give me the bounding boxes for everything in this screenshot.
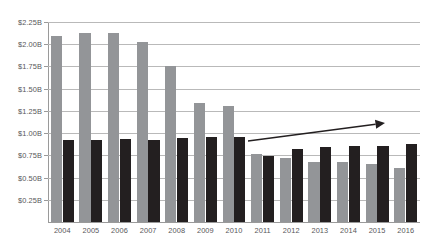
x-axis-tick-label-2008: 2008 [168, 226, 185, 235]
bar-black-series-2011 [263, 156, 274, 222]
y-axis-tick-label: $2.00B [18, 40, 42, 49]
bar-group-2008 [165, 22, 188, 222]
bar-group-2016 [394, 22, 417, 222]
y-axis-tick-label: $0.50B [18, 173, 42, 182]
bar-black-series-2008 [177, 138, 188, 222]
bar-black-series-2016 [406, 144, 417, 222]
x-axis-tick-label-2016: 2016 [397, 226, 414, 235]
bar-group-2013 [308, 22, 331, 222]
y-axis-tick-label: $1.75B [18, 62, 42, 71]
x-axis-tick-label-2007: 2007 [140, 226, 157, 235]
bar-gray-series-2008 [165, 66, 176, 222]
y-axis-tick-label: $1.00B [18, 129, 42, 138]
bar-black-series-2015 [377, 146, 388, 222]
bar-chart: $2.25B$2.00B$1.75B$1.50B$1.25B$1.00B$0.7… [0, 0, 428, 243]
bar-black-series-2009 [206, 137, 217, 222]
y-axis-tick-label: $2.25B [18, 18, 42, 27]
x-axis-tick-label-2004: 2004 [54, 226, 71, 235]
bar-gray-series-2007 [137, 42, 148, 222]
bar-black-series-2007 [148, 140, 159, 222]
x-axis-tick-label-2013: 2013 [311, 226, 328, 235]
y-axis-tick-label: $0.75B [18, 151, 42, 160]
bars-layer [48, 22, 420, 222]
plot-area: $2.25B$2.00B$1.75B$1.50B$1.25B$1.00B$0.7… [48, 22, 420, 222]
bar-group-2011 [251, 22, 274, 222]
x-axis-tick-label-2014: 2014 [340, 226, 357, 235]
bar-group-2010 [223, 22, 246, 222]
bar-group-2009 [194, 22, 217, 222]
bar-black-series-2012 [292, 149, 303, 222]
x-axis-tick-label-2015: 2015 [369, 226, 386, 235]
x-axis-tick-label-2011: 2011 [254, 226, 270, 235]
bar-gray-series-2004 [51, 36, 62, 222]
y-axis-tick-label: $1.25B [18, 106, 42, 115]
bar-black-series-2005 [91, 140, 102, 222]
x-axis-labels: 2004200520062007200820092010201120122013… [48, 226, 420, 242]
bar-gray-series-2016 [394, 168, 405, 222]
bar-gray-series-2012 [280, 158, 291, 222]
bar-group-2015 [366, 22, 389, 222]
bar-group-2006 [108, 22, 131, 222]
bar-black-series-2013 [320, 147, 331, 222]
bar-black-series-2014 [349, 146, 360, 222]
bar-gray-series-2005 [79, 33, 90, 222]
x-axis-tick-label-2006: 2006 [111, 226, 128, 235]
bar-group-2012 [280, 22, 303, 222]
bar-black-series-2004 [63, 140, 74, 222]
bar-group-2004 [51, 22, 74, 222]
bar-gray-series-2006 [108, 33, 119, 222]
x-axis-tick-label-2005: 2005 [82, 226, 99, 235]
x-axis-tick-label-2012: 2012 [283, 226, 300, 235]
bar-group-2005 [79, 22, 102, 222]
y-axis-tick-label: $1.50B [18, 84, 42, 93]
x-axis-tick-label-2009: 2009 [197, 226, 214, 235]
y-axis-tick-label: $0.25B [18, 195, 42, 204]
bar-black-series-2010 [234, 137, 245, 222]
bar-gray-series-2014 [337, 162, 348, 222]
bar-gray-series-2013 [308, 162, 319, 222]
bar-gray-series-2011 [251, 154, 262, 222]
bar-black-series-2006 [120, 139, 131, 222]
x-axis-line [48, 222, 420, 223]
bar-gray-series-2010 [223, 106, 234, 222]
bar-group-2014 [337, 22, 360, 222]
x-axis-tick-label-2010: 2010 [226, 226, 243, 235]
bar-gray-series-2009 [194, 103, 205, 222]
bar-group-2007 [137, 22, 160, 222]
bar-gray-series-2015 [366, 164, 377, 222]
